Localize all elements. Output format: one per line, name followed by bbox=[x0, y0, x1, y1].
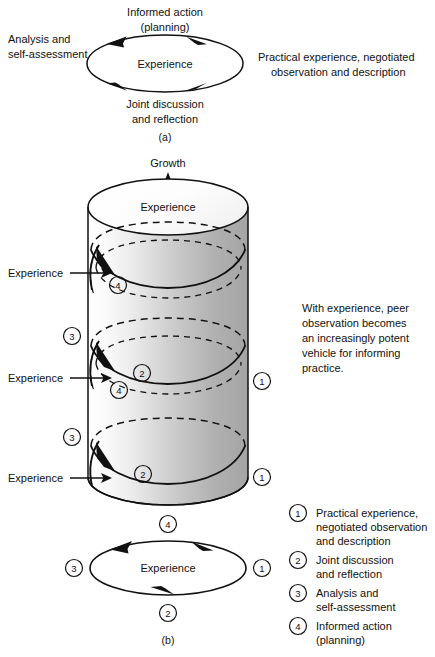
experience-callout-label-1: Experience bbox=[8, 267, 63, 279]
side-note-line-1: With experience, peer bbox=[302, 302, 409, 314]
cycle-b-marker-1: 1 bbox=[254, 560, 271, 577]
informed-action-label-line2: (planning) bbox=[141, 21, 190, 33]
caption-b: (b) bbox=[162, 634, 175, 646]
cycle-b-marker-3-label: 3 bbox=[71, 563, 76, 574]
caption-a: (a) bbox=[159, 131, 172, 143]
legend-item-1-line-3: and description bbox=[316, 535, 391, 547]
marker-1-lower-label: 1 bbox=[259, 472, 264, 483]
growth-label: Growth bbox=[150, 157, 185, 169]
marker-4-upper-label: 4 bbox=[115, 280, 120, 291]
legend-item-4-number: 4 bbox=[295, 621, 300, 632]
cycle-b-marker-3: 3 bbox=[66, 560, 83, 577]
marker-1-upper: 1 bbox=[254, 373, 271, 390]
legend-item-3-number: 3 bbox=[295, 588, 300, 599]
legend-item-4-line-2: (planning) bbox=[316, 634, 365, 646]
side-note: With experience, peer observation become… bbox=[302, 302, 409, 374]
cylinder-body bbox=[88, 207, 248, 505]
marker-4-lower-label: 4 bbox=[116, 385, 121, 396]
legend-item-1-line-1: Practical experience, bbox=[316, 507, 418, 519]
cycle-b-marker-2: 2 bbox=[160, 605, 177, 622]
legend-item-3-line-1: Analysis and bbox=[316, 587, 378, 599]
side-note-line-3: an increasingly potent bbox=[302, 332, 409, 344]
legend-item-1: 1 Practical experience, negotiated obser… bbox=[290, 505, 428, 548]
marker-1-upper-label: 1 bbox=[259, 376, 264, 387]
side-note-line-2: observation becomes bbox=[302, 317, 407, 329]
marker-1-lower: 1 bbox=[254, 469, 271, 486]
analysis-label-line2: self-assessment bbox=[8, 48, 87, 60]
cylinder-top-label: Experience bbox=[140, 201, 195, 213]
joint-discussion-label-line1: Joint discussion bbox=[126, 98, 204, 110]
cycle-b-marker-4: 4 bbox=[160, 516, 177, 533]
cylinder: Experience bbox=[88, 179, 248, 505]
marker-3-upper: 3 bbox=[64, 328, 81, 345]
cycle-b-center-label: Experience bbox=[140, 562, 195, 574]
cycle-b-marker-4-label: 4 bbox=[165, 519, 170, 530]
legend-item-3-line-2: self-assessment bbox=[316, 601, 395, 613]
diagram-a: Informed action (planning) Experience An… bbox=[8, 6, 415, 143]
legend-item-4: 4 Informed action (planning) bbox=[290, 618, 392, 647]
cycle-b-marker-2-label: 2 bbox=[165, 608, 170, 619]
practical-experience-label-line2: observation and description bbox=[271, 66, 406, 78]
cycle-b: 4 Experience 3 1 2 (b) bbox=[66, 516, 271, 647]
marker-3-lower-label: 3 bbox=[69, 432, 74, 443]
legend-item-2: 2 Joint discussion and reflection bbox=[290, 552, 394, 581]
practical-experience-label-line1: Practical experience, negotiated bbox=[258, 51, 415, 63]
legend: 1 Practical experience, negotiated obser… bbox=[290, 505, 428, 647]
legend-item-2-number: 2 bbox=[295, 555, 300, 566]
legend-item-4-line-1: Informed action bbox=[316, 620, 392, 632]
learning-cycle-figure: Informed action (planning) Experience An… bbox=[0, 0, 435, 657]
informed-action-label-line1: Informed action bbox=[127, 6, 203, 18]
legend-item-1-line-2: negotiated observation bbox=[316, 521, 427, 533]
legend-item-2-line-1: Joint discussion bbox=[316, 554, 394, 566]
side-note-line-4: vehicle for informing bbox=[302, 347, 400, 359]
experience-callout-label-2: Experience bbox=[8, 372, 63, 384]
joint-discussion-label-line2: and reflection bbox=[132, 113, 198, 125]
marker-3-lower: 3 bbox=[64, 429, 81, 446]
marker-3-upper-label: 3 bbox=[69, 331, 74, 342]
side-note-line-5: practice. bbox=[302, 362, 344, 374]
legend-item-3: 3 Analysis and self-assessment bbox=[290, 585, 396, 614]
marker-2-lower-label: 2 bbox=[140, 469, 145, 480]
legend-item-2-line-2: and reflection bbox=[316, 568, 382, 580]
marker-2-upper-label: 2 bbox=[139, 368, 144, 379]
experience-callout-label-3: Experience bbox=[8, 472, 63, 484]
legend-item-1-number: 1 bbox=[295, 508, 300, 519]
analysis-label-line1: Analysis and bbox=[8, 33, 70, 45]
cycle-b-marker-1-label: 1 bbox=[259, 563, 264, 574]
cycle-a-center-label: Experience bbox=[137, 58, 192, 70]
